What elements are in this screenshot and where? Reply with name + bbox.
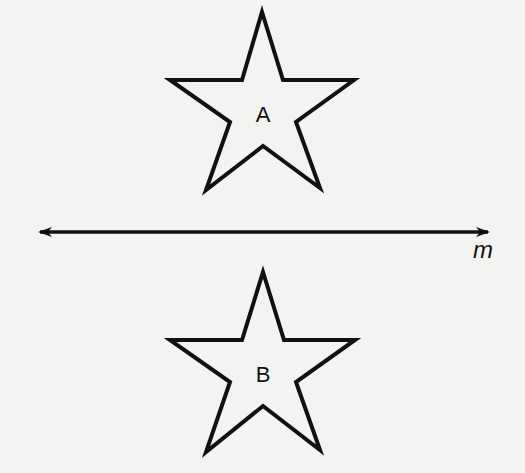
star-a-label: A (256, 102, 271, 127)
diagram-canvas: A m B (0, 0, 525, 473)
star-b-label: B (256, 362, 271, 387)
star-b: B (170, 272, 355, 452)
line-m-label: m (473, 236, 493, 263)
diagram: A m B (0, 0, 525, 473)
star-a: A (170, 12, 354, 190)
line-m: m (40, 232, 493, 263)
